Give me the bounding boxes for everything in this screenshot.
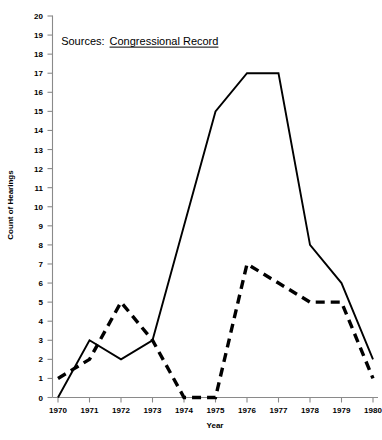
y-tick-label: 5 xyxy=(39,298,44,307)
x-tick-label: 1979 xyxy=(333,406,351,415)
y-tick-label: 9 xyxy=(39,222,44,231)
y-tick-label: 12 xyxy=(34,165,43,174)
x-tick-label: 1974 xyxy=(175,406,193,415)
y-tick-label: 20 xyxy=(34,12,43,21)
x-tick-label: 1976 xyxy=(238,406,256,415)
y-tick-label: 14 xyxy=(34,126,43,135)
y-tick-label: 8 xyxy=(39,241,44,250)
y-tick-label: 18 xyxy=(34,50,43,59)
y-tick-label: 16 xyxy=(34,88,43,97)
y-tick-label: 17 xyxy=(34,69,43,78)
y-tick-label: 6 xyxy=(39,279,44,288)
y-tick-label: 3 xyxy=(39,336,44,345)
x-tick-label: 1972 xyxy=(112,406,130,415)
y-tick-label: 15 xyxy=(34,107,43,116)
sources-annotation: Sources: Congressional Record xyxy=(61,35,218,48)
x-tick-label: 1978 xyxy=(301,406,319,415)
y-tick-label: 7 xyxy=(39,260,44,269)
y-axis-ticks: 01234567891011121314151617181920 xyxy=(34,12,52,403)
y-tick-label: 19 xyxy=(34,31,43,40)
x-tick-label: 1971 xyxy=(81,406,99,415)
sources-label: Sources: xyxy=(61,35,104,47)
chart-container: 01234567891011121314151617181920 1970197… xyxy=(0,0,382,440)
y-axis-title: Count of Hearings xyxy=(6,170,15,240)
y-tick-label: 11 xyxy=(35,184,44,193)
x-axis-title: Year xyxy=(207,421,224,430)
x-tick-label: 1970 xyxy=(49,406,67,415)
series-line-solid xyxy=(58,73,373,397)
x-tick-label: 1975 xyxy=(207,406,225,415)
y-tick-label: 0 xyxy=(39,394,44,403)
y-tick-label: 1 xyxy=(39,374,44,383)
x-axis-ticks: 1970197119721973197419751976197719781979… xyxy=(49,398,382,415)
y-tick-label: 10 xyxy=(34,203,43,212)
sources-value: Congressional Record xyxy=(110,35,219,47)
series-line-dashed xyxy=(58,264,373,398)
y-tick-label: 13 xyxy=(34,146,43,155)
y-tick-label: 4 xyxy=(39,317,44,326)
x-tick-label: 1973 xyxy=(144,406,162,415)
y-tick-label: 2 xyxy=(39,355,44,364)
x-tick-label: 1977 xyxy=(270,406,288,415)
x-tick-label: 1980 xyxy=(364,406,382,415)
line-chart: 01234567891011121314151617181920 1970197… xyxy=(0,0,382,440)
